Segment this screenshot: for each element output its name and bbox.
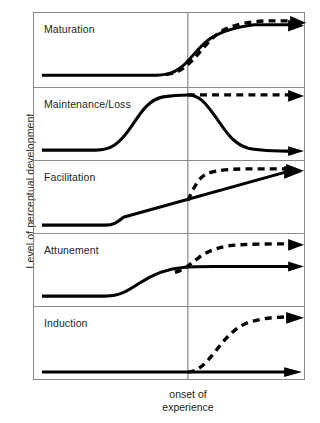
onset-caption-line-2: experience (122, 401, 254, 414)
panel-attunement: Attunement (33, 234, 305, 307)
curve-no-experience (42, 171, 290, 225)
curve-no-experience (42, 267, 294, 297)
perceptual-development-figure: Level of perceptual development Maturati… (0, 0, 320, 423)
panel-maintenance-loss: Maintenance/Loss (33, 88, 305, 161)
arrow-head-icon (288, 262, 304, 272)
arrow-head-icon (288, 239, 304, 251)
arrow-head-icon (288, 90, 304, 102)
panel-maturation-plot (34, 13, 304, 87)
curve-no-experience (42, 95, 294, 151)
panel-stack: Maturation Maintenance/Loss Facilitati (33, 12, 305, 380)
arrow-head-icon (286, 312, 304, 324)
panel-induction: Induction (33, 307, 305, 380)
panel-induction-plot (34, 307, 304, 379)
panel-facilitation-plot (34, 161, 304, 233)
onset-of-experience-caption: onset of experience (122, 388, 254, 414)
panel-facilitation: Facilitation (33, 161, 305, 234)
onset-caption-line-1: onset of (122, 388, 254, 401)
panel-maturation: Maturation (33, 12, 305, 88)
arrow-head-icon (288, 146, 304, 156)
panel-maintenance-loss-plot (34, 88, 304, 160)
curve-no-experience (42, 25, 294, 76)
curve-with-experience (188, 317, 290, 372)
arrow-head-icon (284, 367, 302, 377)
panel-attunement-plot (34, 234, 304, 306)
